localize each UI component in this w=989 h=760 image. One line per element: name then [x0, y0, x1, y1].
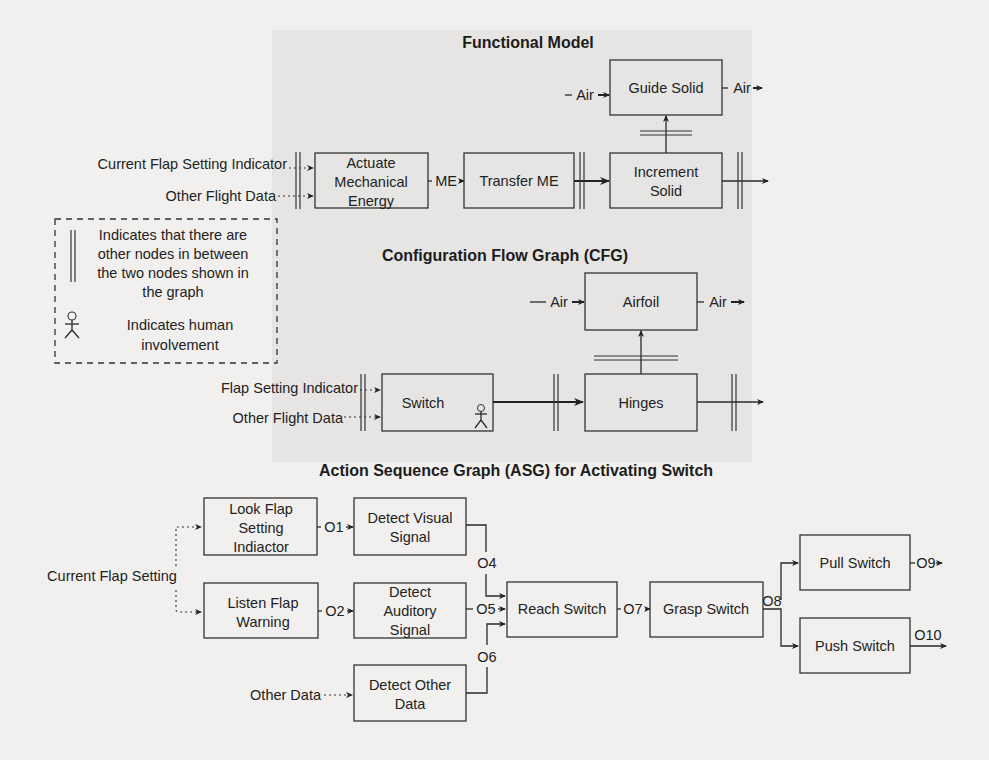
asg-output-o2: O2 [325, 603, 344, 619]
diagram-canvas: Functional Model Current Flap Setting In… [0, 0, 989, 760]
svg-text:Increment: Increment [634, 164, 698, 180]
svg-text:Warning: Warning [236, 614, 289, 630]
asg-output-o4: O4 [477, 555, 496, 571]
legend-skip-line-3: the two nodes shown in [97, 265, 249, 281]
legend-human-line-2: involvement [141, 337, 218, 353]
cfg-input-flap-indicator: Flap Setting Indicator [221, 380, 358, 396]
node-increment-solid[interactable]: Increment Solid [610, 153, 722, 208]
svg-text:Switch: Switch [402, 395, 445, 411]
node-pull-switch[interactable]: Pull Switch [800, 535, 910, 590]
node-push-switch[interactable]: Push Switch [800, 618, 910, 673]
cfg-flow-air-out: Air [709, 294, 727, 310]
svg-text:Signal: Signal [390, 622, 430, 638]
svg-text:Hinges: Hinges [618, 395, 663, 411]
node-grasp-switch[interactable]: Grasp Switch [650, 582, 763, 637]
asg-output-o6: O6 [477, 649, 496, 665]
svg-text:Solid: Solid [650, 183, 682, 199]
svg-text:Push Switch: Push Switch [815, 638, 895, 654]
asg-input-current-flap-setting: Current Flap Setting [47, 568, 177, 584]
node-listen-flap-warning[interactable]: Listen Flap Warning [204, 583, 318, 638]
asg-output-o5: O5 [476, 601, 495, 617]
svg-text:Transfer ME: Transfer ME [479, 173, 559, 189]
svg-text:Look Flap: Look Flap [229, 501, 293, 517]
svg-text:Pull Switch: Pull Switch [820, 555, 891, 571]
legend: Indicates that there are other nodes in … [55, 219, 277, 363]
cfg-title: Configuration Flow Graph (CFG) [382, 247, 628, 264]
svg-text:Signal: Signal [390, 529, 430, 545]
asg-output-o10: O10 [914, 627, 941, 643]
node-actuate-mechanical-energy[interactable]: Actuate Mechanical Energy [315, 153, 428, 209]
svg-text:Grasp Switch: Grasp Switch [663, 601, 749, 617]
svg-text:Guide Solid: Guide Solid [629, 80, 704, 96]
svg-text:Actuate: Actuate [346, 155, 395, 171]
fm-input-flap-indicator: Current Flap Setting Indicator [98, 156, 288, 172]
svg-text:Mechanical: Mechanical [334, 174, 407, 190]
asg-input-other-data: Other Data [250, 687, 322, 703]
skip-marker-icon [361, 374, 365, 431]
functional-model-title: Functional Model [462, 34, 594, 51]
node-reach-switch[interactable]: Reach Switch [507, 582, 617, 637]
flow-label-me: ME [435, 173, 457, 189]
node-guide-solid[interactable]: Guide Solid [610, 60, 722, 115]
node-look-flap-setting-indicator[interactable]: Look Flap Setting Indiactor [204, 498, 317, 555]
svg-text:Detect Other: Detect Other [369, 677, 451, 693]
fm-input-other-flight-data: Other Flight Data [166, 188, 277, 204]
cfg-flow-air-in: Air [550, 294, 568, 310]
asg-output-o8: O8 [762, 593, 781, 609]
skip-marker-icon [71, 230, 75, 282]
svg-text:Airfoil: Airfoil [623, 294, 659, 310]
asg-output-o1: O1 [324, 519, 343, 535]
asg-output-o7: O7 [623, 601, 642, 617]
cfg-input-other-flight-data: Other Flight Data [233, 410, 344, 426]
legend-skip-line-2: other nodes in between [98, 246, 249, 262]
svg-text:Auditory: Auditory [383, 603, 437, 619]
node-detect-other-data[interactable]: Detect Other Data [354, 665, 466, 721]
human-stick-figure-icon [475, 405, 487, 429]
asg-output-o9: O9 [916, 555, 935, 571]
node-detect-auditory-signal[interactable]: Detect Auditory Signal [354, 583, 466, 638]
svg-text:Data: Data [395, 696, 427, 712]
skip-marker-icon [296, 152, 300, 209]
flow-label-air-out: Air [733, 80, 751, 96]
legend-skip-line-1: Indicates that there are [99, 227, 247, 243]
functional-model: Functional Model Current Flap Setting In… [98, 34, 768, 209]
action-sequence-graph: Action Sequence Graph (ASG) for Activati… [47, 462, 946, 721]
legend-skip-line-4: the graph [142, 284, 203, 300]
svg-text:Detect Visual: Detect Visual [367, 510, 452, 526]
asg-title: Action Sequence Graph (ASG) for Activati… [319, 462, 713, 479]
human-stick-figure-icon [65, 312, 79, 338]
svg-text:Indiactor: Indiactor [233, 539, 289, 555]
node-detect-visual-signal[interactable]: Detect Visual Signal [354, 498, 466, 555]
svg-text:Detect: Detect [389, 584, 431, 600]
legend-human-line-1: Indicates human [127, 317, 233, 333]
node-airfoil[interactable]: Airfoil [585, 273, 697, 330]
svg-text:Listen Flap: Listen Flap [228, 595, 299, 611]
svg-text:Setting: Setting [238, 520, 283, 536]
flow-label-air-in: Air [576, 87, 594, 103]
node-transfer-me[interactable]: Transfer ME [464, 153, 574, 208]
node-hinges[interactable]: Hinges [585, 374, 697, 431]
skip-marker-icon [594, 356, 678, 360]
svg-text:Energy: Energy [348, 193, 395, 209]
node-switch[interactable]: Switch [382, 374, 493, 431]
configuration-flow-graph: Configuration Flow Graph (CFG) Flap Sett… [221, 247, 763, 431]
svg-text:Reach Switch: Reach Switch [518, 601, 607, 617]
